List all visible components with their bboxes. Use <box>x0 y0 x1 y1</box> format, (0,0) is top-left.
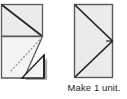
left-diagram-group <box>2 5 48 81</box>
figure-caption: Make 1 unit. <box>62 82 126 94</box>
right-diagram-group <box>75 5 113 78</box>
figure-container: Make 1 unit. <box>0 0 127 99</box>
